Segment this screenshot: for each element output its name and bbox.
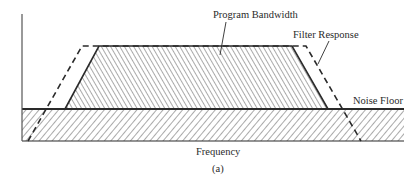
noise-floor-band [22, 109, 404, 141]
figure-caption: (a) [212, 163, 224, 175]
filter-response-label: Filter Response [293, 29, 359, 40]
noise-floor-label: Noise Floor [353, 95, 403, 106]
x-axis-label: Frequency [196, 146, 241, 157]
program-bandwidth-shape [65, 46, 328, 109]
bandwidth-diagram: Program Bandwidth Filter Response Noise … [0, 0, 420, 182]
diagram-canvas: Program Bandwidth Filter Response Noise … [0, 0, 420, 182]
filter-response-leader [318, 41, 329, 64]
program-bandwidth-label: Program Bandwidth [213, 9, 299, 20]
